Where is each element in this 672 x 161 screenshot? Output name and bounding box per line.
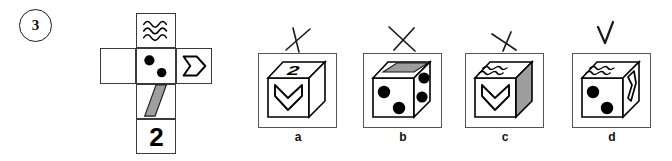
option-d[interactable]: d [560, 24, 656, 154]
worksheet-canvas: 3 [0, 0, 672, 161]
check-mark-icon [590, 21, 636, 51]
chevron-arrow-icon [177, 49, 211, 83]
option-c[interactable]: c [457, 24, 553, 154]
option-c-label: c [457, 130, 553, 144]
net-face-middle [136, 48, 176, 84]
net-face-top [136, 13, 176, 48]
option-b-frame [363, 53, 442, 128]
option-d-cube [573, 54, 650, 127]
two-dots-icon [137, 49, 175, 83]
question-number-badge: 3 [19, 9, 52, 42]
option-c-frame [465, 53, 544, 128]
option-b-label: b [355, 130, 451, 144]
net-face-left [100, 48, 136, 84]
net-face-lower [136, 84, 176, 119]
x-cross-mark-icon [483, 24, 529, 54]
option-c-cube [466, 54, 543, 127]
net-face-right [176, 48, 212, 84]
net-face-bottom-text: 2 [137, 120, 175, 153]
option-a[interactable]: 2 a [250, 24, 346, 154]
answer-options: 2 a [250, 24, 668, 154]
cube-net: 2 [100, 13, 212, 153]
option-b-cube [364, 54, 441, 127]
gray-parallelogram-icon [137, 85, 175, 118]
option-d-label: d [564, 130, 660, 144]
net-face-bottom: 2 [136, 119, 176, 154]
x-cross-mark-icon [381, 24, 427, 54]
option-a-label: a [250, 130, 346, 144]
question-number-text: 3 [32, 18, 40, 33]
option-a-frame: 2 [258, 53, 337, 128]
option-a-cube: 2 [259, 54, 336, 127]
option-d-frame [572, 53, 651, 128]
x-cross-mark-icon [276, 24, 322, 54]
wavy-lines-icon [137, 14, 175, 47]
option-b[interactable]: b [355, 24, 451, 154]
